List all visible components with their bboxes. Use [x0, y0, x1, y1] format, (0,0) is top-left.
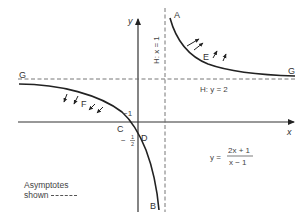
x-axis-label: x [286, 127, 292, 137]
legend: Asymptotes shown [24, 180, 77, 200]
point-b-label: B [150, 201, 156, 211]
point-g-right-label: G [288, 66, 295, 76]
point-a-label: A [174, 10, 180, 20]
svg-text:−: − [121, 136, 126, 145]
svg-text:x − 1: x − 1 [229, 158, 247, 167]
point-c-label: C [117, 124, 124, 134]
svg-text:2: 2 [131, 141, 134, 147]
vertical-asymptote-label: H: x = 1 [152, 36, 161, 64]
point-d-label: D [141, 133, 148, 143]
horizontal-asymptote-label: H: y = 2 [200, 85, 228, 94]
dashed-line-sample [51, 195, 77, 196]
x-intercept-label: −1 [123, 109, 133, 118]
upper-right-branch [170, 18, 295, 76]
equation: y = 2x + 1 x − 1 [210, 146, 253, 167]
y-intercept-label: − 1 2 [121, 134, 135, 147]
svg-text:y =: y = [210, 153, 221, 162]
legend-line1: Asymptotes [24, 180, 77, 190]
point-g-left-label: G [19, 70, 26, 80]
legend-line2: shown [24, 190, 77, 200]
point-f-label: F [81, 99, 87, 109]
point-e-label: E [203, 52, 209, 62]
svg-text:1: 1 [131, 134, 134, 140]
svg-text:2x + 1: 2x + 1 [228, 146, 251, 155]
y-axis-label: y [127, 16, 133, 26]
